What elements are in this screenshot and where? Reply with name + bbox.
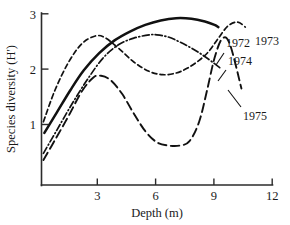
y-axis-title: Species diversity (H') <box>4 45 18 153</box>
y-tick-label-2: 2 <box>30 63 36 77</box>
series-line-1972 <box>44 18 218 133</box>
y-tick-label-1: 1 <box>30 118 36 132</box>
series-labels-group: 1972 1973 1974 1975 <box>226 34 279 123</box>
x-tick-label-6: 6 <box>152 189 158 203</box>
y-tick-label-3: 3 <box>30 8 36 22</box>
leader-1974 <box>218 70 226 81</box>
leader-1972 <box>216 53 224 65</box>
series-label-1973: 1973 <box>255 34 279 48</box>
series-label-1972: 1972 <box>226 36 250 50</box>
species-diversity-depth-chart: 3 2 1 3 6 9 12 Depth (m) Species diversi… <box>0 0 290 225</box>
x-tick-label-12: 12 <box>266 189 279 203</box>
figure-container: 3 2 1 3 6 9 12 Depth (m) Species diversi… <box>0 0 290 225</box>
x-ticks-group: 3 6 9 12 <box>94 179 278 204</box>
series-line-1975 <box>43 37 241 160</box>
x-axis-title: Depth (m) <box>131 206 183 220</box>
series-label-1974: 1974 <box>228 54 252 68</box>
leader-1975 <box>228 90 241 107</box>
x-tick-label-9: 9 <box>211 189 217 203</box>
series-label-1975: 1975 <box>243 109 267 123</box>
x-tick-label-3: 3 <box>94 189 100 203</box>
series-group <box>43 18 245 160</box>
